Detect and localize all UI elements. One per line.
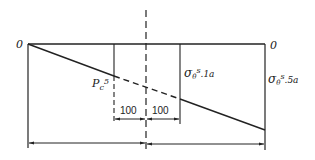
zero-label-left: 0 [16,38,23,51]
stress-diagram: 0 0 Pc5 σθs.1a σθs.5a 100 100 [0,0,315,160]
stress-line-solid-left [28,44,114,76]
sigma-5a-idx: .5a [285,75,299,85]
stress-line-solid-right [180,99,265,130]
stress-line-dashed [114,76,180,99]
pc-label-sup: 5 [104,77,109,86]
dimension-left-label: 100 [120,105,137,116]
sigma-1a-label: σθs.1a [184,66,214,81]
sigma-5a-label: σθs.5a [268,72,298,87]
sigma-1a-idx: .1a [201,69,215,79]
zero-label-right: 0 [270,39,277,52]
dimension-right-label: 100 [152,105,169,116]
pc-label: Pc5 [91,77,109,92]
